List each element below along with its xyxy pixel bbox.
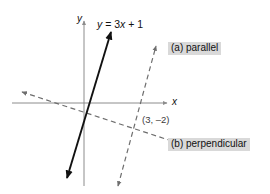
solid-line-y-equals-3x-plus-1 — [67, 32, 111, 178]
figure-container: y x y = 3x + 1 (3, –2) (a) parallel (b) … — [0, 0, 270, 194]
x-axis-label: x — [172, 97, 177, 107]
legend-label-parallel: (a) parallel — [168, 42, 221, 55]
y-axis-label: y — [77, 14, 82, 24]
equation-label: y = 3x + 1 — [97, 19, 143, 30]
equation-constant: + 1 — [125, 18, 143, 30]
legend-label-perpendicular: (b) perpendicular — [168, 138, 250, 151]
point-label-3-minus-2: (3, –2) — [142, 115, 169, 125]
equation-equals-coefficient: = 3 — [102, 18, 120, 30]
